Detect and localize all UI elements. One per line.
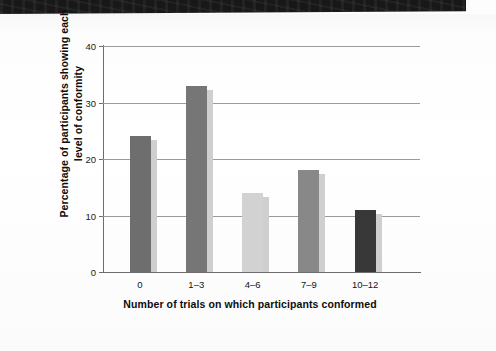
y-tick-label: 30 <box>85 97 96 108</box>
bar-shadow <box>263 197 269 272</box>
bar <box>298 170 319 272</box>
x-axis-title: Number of trials on which participants c… <box>60 298 440 310</box>
y-tick-mark <box>99 159 103 160</box>
bar-shadow <box>207 90 213 272</box>
y-tick-mark <box>99 103 103 104</box>
y-tick-label: 10 <box>85 210 96 221</box>
scanned-page: Percentage of participants showing each … <box>0 0 496 351</box>
y-tick-label: 20 <box>85 154 96 165</box>
x-tick-label: 7–9 <box>301 279 317 290</box>
y-tick-label: 40 <box>85 41 96 52</box>
bar-shadow <box>319 174 325 272</box>
y-tick-mark <box>99 216 103 217</box>
bar-chart-figure: Percentage of participants showing each … <box>0 0 496 351</box>
gridline <box>103 46 420 47</box>
bar-shadow <box>151 140 157 272</box>
bar <box>242 193 263 272</box>
x-tick-label: 10–12 <box>352 279 378 290</box>
gridline <box>103 103 420 104</box>
x-tick-label: 4–6 <box>245 279 261 290</box>
x-axis-line <box>103 272 421 273</box>
plot-area: 010203040 01–34–67–910–12 <box>103 46 420 272</box>
y-tick-label: 0 <box>91 267 96 278</box>
y-tick-mark <box>99 46 103 47</box>
y-axis-title: Percentage of participants showing each … <box>58 0 85 229</box>
bar <box>355 210 376 272</box>
x-tick-label: 0 <box>137 279 142 290</box>
y-tick-mark <box>99 272 103 273</box>
bar <box>130 136 151 272</box>
bar <box>186 86 207 272</box>
bar-shadow <box>376 214 382 272</box>
x-tick-label: 1–3 <box>188 279 204 290</box>
